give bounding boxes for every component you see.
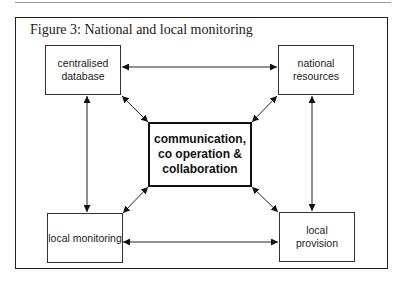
node-national-resources: national resources bbox=[278, 45, 354, 95]
node-communication-center: communication, co operation & collaborat… bbox=[148, 122, 252, 187]
node-centralised-database: centralised database bbox=[45, 45, 121, 95]
node-local-provision: local provision bbox=[279, 212, 355, 262]
node-local-monitoring: local monitoring bbox=[47, 213, 123, 263]
